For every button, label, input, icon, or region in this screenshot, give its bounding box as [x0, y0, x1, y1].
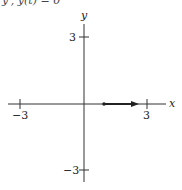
phase-line-plot	[0, 0, 182, 190]
x-tick-label-3: 3	[143, 110, 150, 121]
y-tick-label-3: 3	[69, 32, 76, 43]
x-tick-label-neg3: −3	[12, 110, 28, 121]
y-tick-label-neg3: −3	[63, 165, 79, 176]
trajectory-arrow-icon	[131, 101, 139, 107]
trajectory-start-dot	[102, 102, 106, 106]
y-axis-label: y	[81, 10, 87, 21]
x-axis-label: x	[169, 98, 175, 109]
